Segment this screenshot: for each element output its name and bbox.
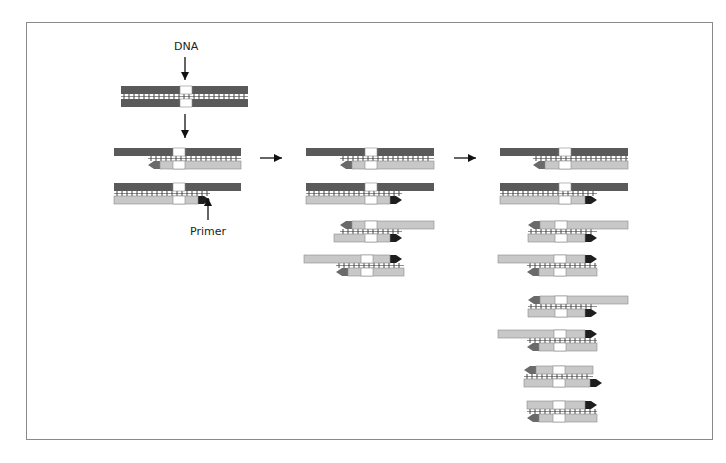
reverse-primer-icon [528, 296, 540, 304]
reverse-primer-icon [148, 161, 160, 169]
cycle-1-to-2-arrow-head-icon [274, 154, 282, 162]
target-region [553, 366, 565, 374]
new-strand [539, 268, 597, 276]
target-region [180, 99, 192, 107]
target-region [559, 148, 571, 156]
target-region [555, 296, 567, 304]
target-region [553, 401, 565, 409]
new-strand [500, 196, 585, 204]
cycle-2-to-3-arrow-head-icon [468, 154, 476, 162]
target-region [365, 161, 377, 169]
dna-label: DNA [174, 40, 198, 53]
reverse-primer-icon [528, 221, 540, 229]
target-region [365, 183, 377, 191]
reverse-primer-icon [527, 414, 539, 422]
new-strand [539, 414, 597, 422]
target-region [554, 343, 566, 351]
target-region [553, 414, 565, 422]
new-strand [306, 196, 390, 204]
target-region [173, 148, 185, 156]
new-strand [352, 161, 434, 169]
forward-primer-icon [390, 196, 402, 204]
reverse-primer-icon [340, 221, 352, 229]
forward-primer-icon [585, 234, 597, 242]
primer-label: Primer [190, 225, 226, 238]
reverse-primer-icon [533, 161, 545, 169]
target-region [361, 268, 373, 276]
target-region [555, 221, 567, 229]
dna-pointer-arrow-head-icon [181, 72, 189, 80]
forward-primer-icon [585, 255, 597, 263]
forward-primer-icon [585, 330, 597, 338]
new-strand [545, 161, 628, 169]
target-region [365, 196, 377, 204]
target-region [365, 148, 377, 156]
target-region [555, 309, 567, 317]
reverse-primer-icon [527, 268, 539, 276]
new-strand [160, 161, 241, 169]
denature-arrow-head-icon [181, 130, 189, 138]
new-strand [304, 255, 390, 263]
new-strand [540, 221, 628, 229]
new-strand [352, 221, 434, 229]
target-region [559, 183, 571, 191]
target-region [365, 234, 377, 242]
target-region [173, 183, 185, 191]
new-strand [539, 343, 597, 351]
target-region [559, 161, 571, 169]
reverse-primer-icon [336, 268, 348, 276]
forward-primer-icon [590, 379, 602, 387]
target-region [361, 255, 373, 263]
target-region [365, 221, 377, 229]
target-region [554, 255, 566, 263]
forward-primer-icon [390, 234, 402, 242]
new-strand [498, 330, 585, 338]
target-region [554, 330, 566, 338]
forward-primer-icon [585, 196, 597, 204]
forward-primer-icon [390, 255, 402, 263]
target-region [555, 234, 567, 242]
pcr-diagram-canvas [0, 0, 726, 463]
target-region [559, 196, 571, 204]
new-strand [334, 234, 390, 242]
reverse-primer-icon [340, 161, 352, 169]
new-strand [498, 255, 585, 263]
target-region [180, 86, 192, 94]
reverse-primer-icon [524, 366, 536, 374]
target-region [173, 161, 185, 169]
new-strand [348, 268, 404, 276]
target-region [554, 268, 566, 276]
forward-primer-icon [585, 309, 597, 317]
new-strand [540, 296, 628, 304]
pcr-diagram: DNA Primer [0, 0, 726, 463]
target-region [553, 379, 565, 387]
target-region [173, 196, 185, 204]
forward-primer-icon [585, 401, 597, 409]
reverse-primer-icon [527, 343, 539, 351]
new-strand [114, 196, 198, 204]
